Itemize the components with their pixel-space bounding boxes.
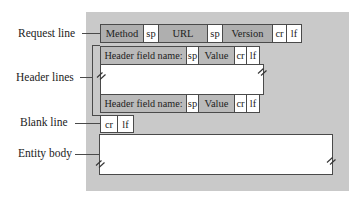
header-lines-label: Header lines [16, 71, 74, 84]
header-field-name-cell: Header field name: [100, 94, 187, 113]
request-line-connector [82, 33, 100, 34]
url-cell: URL [158, 24, 208, 43]
break-mark-icon [95, 158, 106, 169]
header-line-row-2: Header field name: sp Value cr lf [100, 94, 260, 113]
method-cell: Method [100, 24, 144, 43]
entity-body-box [99, 134, 333, 175]
http-request-format-diagram: Method sp URL sp Version cr lf Header fi… [0, 0, 359, 199]
break-mark-icon [257, 66, 268, 77]
sp-cell: sp [143, 24, 159, 43]
lf-cell: lf [246, 46, 260, 65]
header-lines-continuation-box [100, 64, 264, 95]
entity-body-connector [75, 154, 99, 155]
blank-line-label: Blank line [20, 116, 68, 129]
header-line-row-1: Header field name: sp Value cr lf [100, 46, 260, 65]
value-cell: Value [198, 94, 235, 113]
break-mark-icon [96, 70, 107, 81]
blank-line-row: cr lf [100, 115, 134, 133]
sp-cell: sp [207, 24, 223, 43]
header-lines-connector [80, 77, 92, 78]
request-line-label: Request line [18, 27, 75, 40]
header-field-name-cell: Header field name: [100, 46, 187, 65]
entity-body-label: Entity body [18, 147, 72, 160]
break-mark-icon [326, 155, 337, 166]
value-cell: Value [198, 46, 235, 65]
lf-cell: lf [117, 115, 134, 133]
lf-cell: lf [286, 24, 302, 43]
lf-cell: lf [246, 94, 260, 113]
cr-cell: cr [272, 24, 287, 43]
cr-cell: cr [100, 115, 118, 133]
version-cell: Version [222, 24, 273, 43]
request-line-row: Method sp URL sp Version cr lf [100, 24, 302, 43]
blank-line-connector [75, 123, 100, 124]
